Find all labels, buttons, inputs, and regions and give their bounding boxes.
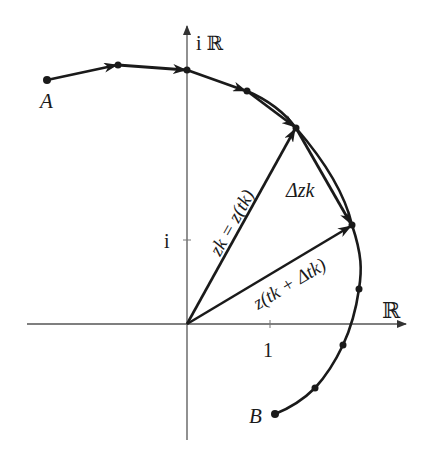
node — [184, 67, 191, 74]
node — [115, 62, 122, 69]
node-z-next — [349, 222, 356, 229]
delta-zk-label: Δzk — [285, 179, 316, 201]
node — [340, 342, 347, 349]
segment-1 — [47, 65, 117, 80]
node-zk — [293, 125, 300, 132]
delta-zk-segment — [296, 128, 351, 224]
point-a-label: A — [38, 89, 53, 113]
complex-plane-diagram: i ℝ ℝ 1 i A B Δzk zk = z(tk) z(tk + Δtk) — [0, 0, 429, 458]
zk-label: zk = z(tk) — [205, 186, 260, 260]
segment-2 — [118, 65, 186, 70]
real-axis-label: ℝ — [382, 298, 401, 323]
segment-3 — [187, 70, 246, 91]
node — [244, 88, 251, 95]
tick-label-1: 1 — [263, 339, 273, 361]
imag-axis-label: i ℝ — [196, 32, 224, 54]
node — [312, 385, 319, 392]
tick-label-i: i — [164, 230, 170, 252]
segment-4 — [247, 91, 295, 127]
point-b-label: B — [249, 404, 262, 428]
curve-nodes — [43, 62, 363, 419]
point-b — [271, 410, 279, 418]
node — [356, 286, 363, 293]
point-a — [43, 76, 51, 84]
